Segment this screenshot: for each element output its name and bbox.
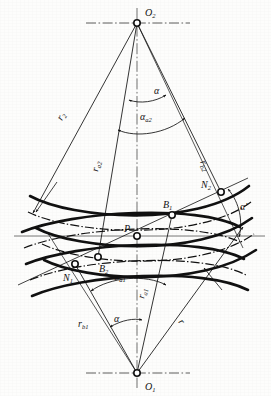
label-rb1: rb1 xyxy=(78,318,88,330)
node-B1 xyxy=(169,212,175,218)
label-alpha-prime: α' xyxy=(240,201,248,212)
label-B2: B2 xyxy=(99,263,109,275)
diagram-labels: O2 O1 P B1 B2 N1 N2 r2 ra2 rb2 ra1 rb1 r… xyxy=(54,7,248,393)
gear1-tooth-profiles xyxy=(22,213,248,296)
node-O2 xyxy=(134,20,140,26)
node-N2 xyxy=(218,189,224,195)
label-N1: N1 xyxy=(62,272,73,284)
radius-line-rb1 xyxy=(75,264,137,373)
label-alpha-bottom: α xyxy=(114,313,120,324)
label-ra2: ra2 xyxy=(89,159,103,172)
label-N2: N2 xyxy=(200,179,212,191)
label-alpha-top: α xyxy=(154,85,160,96)
node-N1 xyxy=(72,261,78,267)
angle-arcs xyxy=(91,95,241,327)
node-P xyxy=(134,233,140,239)
label-P: P xyxy=(123,223,130,234)
radius-line-rb2 xyxy=(137,23,221,192)
gear2-profile-mid xyxy=(36,218,252,246)
radii-from-o2 xyxy=(33,23,243,257)
figure-canvas: O2 O1 P B1 B2 N1 N2 r2 ra2 rb2 ra1 rb1 r… xyxy=(0,0,271,396)
gear2-pitch-arc-2 xyxy=(42,234,254,261)
pointer-arrow-gear2 xyxy=(36,182,57,212)
label-O2: O2 xyxy=(145,7,156,19)
angle-arc-alpha-top xyxy=(129,95,166,102)
label-r1: r xyxy=(176,316,187,326)
label-alpha-a2: αa2 xyxy=(140,111,153,123)
gear-meshing-diagram: O2 O1 P B1 B2 N1 N2 r2 ra2 rb2 ra1 rb1 r… xyxy=(0,0,271,396)
label-B1: B1 xyxy=(163,199,172,211)
node-O1 xyxy=(134,370,140,376)
label-r2: r2 xyxy=(54,110,68,123)
node-B2 xyxy=(95,254,101,260)
label-alpha-a1: αa1 xyxy=(114,271,126,283)
label-O1: O1 xyxy=(145,381,155,393)
